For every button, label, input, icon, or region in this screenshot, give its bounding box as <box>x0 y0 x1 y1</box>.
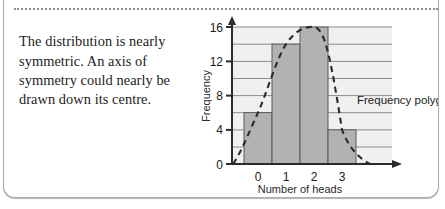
worksheet-card: The distribution is nearly symmetric. An… <box>3 0 439 198</box>
bar-2 <box>300 27 328 164</box>
frequency-polygon-annotation: Frequency polygon <box>357 94 438 106</box>
x-axis-title: Number of heads <box>258 183 343 194</box>
x-tick-label-0: 0 <box>255 170 262 184</box>
explanatory-text: The distribution is nearly symmetric. An… <box>19 32 204 109</box>
x-tick-label-3: 3 <box>339 170 346 184</box>
y-tick-label-4: 16 <box>210 21 224 35</box>
x-tick-label-1: 1 <box>283 170 290 184</box>
y-tick-label-1: 4 <box>216 123 223 137</box>
x-axis-arrowhead <box>392 160 402 168</box>
y-axis-arrowhead <box>228 16 236 25</box>
chart-svg: 0 4 8 12 16 0 1 2 3 Number of heads Freq… <box>200 12 438 194</box>
bar-0 <box>244 113 272 164</box>
x-tick-label-2: 2 <box>311 170 318 184</box>
y-tick-label-2: 8 <box>216 89 223 103</box>
y-tick-label-3: 12 <box>210 55 224 69</box>
frequency-histogram-chart: 0 4 8 12 16 0 1 2 3 Number of heads Freq… <box>200 12 438 194</box>
y-axis-title: Frequency <box>200 70 212 122</box>
y-tick-label-0: 0 <box>216 158 223 172</box>
